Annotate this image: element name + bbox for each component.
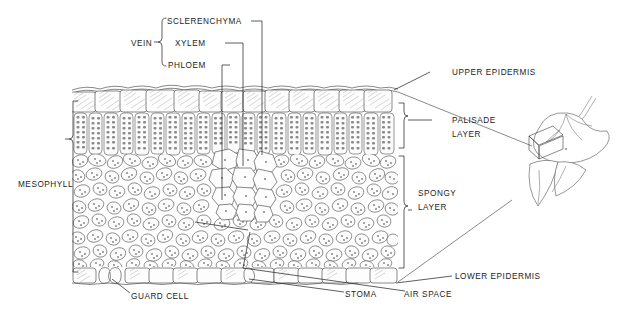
diagram-canvas: SCLERENCHYMA VEIN XYLEM PHLOEM UPPER EPI… [0,0,624,324]
label-phloem: PHLOEM [168,61,206,70]
label-vein: VEIN [131,39,152,48]
lower-epidermis-cells [73,268,397,284]
spongy-bracket [399,156,412,268]
label-sclerenchyma: SCLERENCHYMA [167,17,242,26]
right-leader-lines [394,72,452,283]
label-spongy-layer-line2: LAYER [418,203,447,212]
label-mesophyll: MESOPHYLL [18,180,73,189]
whole-leaf-illustration [529,96,609,206]
upper-epidermis-cells [70,90,392,112]
palisade-layer-cells [74,113,394,155]
label-xylem: XYLEM [175,39,206,48]
label-guard-cell: GUARD CELL [131,292,189,301]
palisade-bracket [399,103,432,148]
label-palisade-layer-line2: LAYER [452,130,481,139]
label-spongy-layer-line1: SPONGY [418,189,456,198]
vein-bracket [158,18,166,66]
label-upper-epidermis: UPPER EPIDERMIS [452,68,536,77]
label-lower-epidermis: LOWER EPIDERMIS [455,272,541,281]
leaf-cross-section-figure: SCLERENCHYMA VEIN XYLEM PHLOEM UPPER EPI… [0,0,624,324]
label-air-space: AIR SPACE [404,290,452,299]
guard-cell-pair [99,268,121,284]
label-palisade-layer-line1: PALISADE [452,116,496,125]
label-stoma: STOMA [345,290,377,299]
